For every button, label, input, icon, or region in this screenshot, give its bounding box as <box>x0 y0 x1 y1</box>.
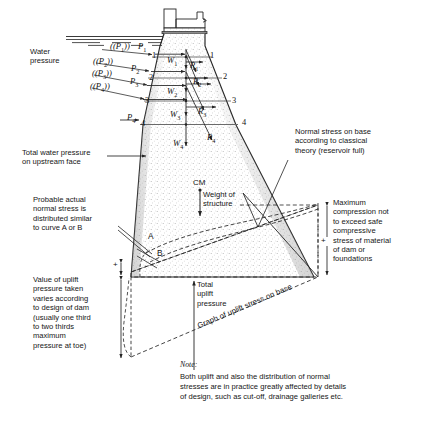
water-ordinate-p1: ((P1)) <box>110 41 130 53</box>
reaction-r2: R2 <box>193 76 201 88</box>
water-ordinate-p2: ((P2)) <box>93 56 113 68</box>
section-number-left-4: 4 <box>141 119 145 128</box>
water-pressure-label: Water pressure <box>30 47 60 66</box>
annotation-probable-actual-stress: Probable actual normal stress is distrib… <box>33 195 92 233</box>
section-number-right-4: 4 <box>242 118 246 127</box>
thrust-p4: P4 <box>127 112 135 124</box>
section-number-right-1: 1 <box>210 51 214 60</box>
reaction-r3: R3 <box>198 106 206 118</box>
reaction-r1: R1 <box>190 60 198 72</box>
annotation-uplift-value: Value of uplift pressure taken varies ac… <box>33 275 91 350</box>
reaction-r4: R4 <box>207 132 215 144</box>
annotation-max-compression: Maximum compression not to exceed safe c… <box>333 198 391 264</box>
annotation-normal-stress-base: Normal stress on base according to class… <box>295 127 371 155</box>
thrust-p3: P3 <box>130 76 138 88</box>
section-number-right-3: 3 <box>232 96 236 105</box>
note-title: Note: <box>180 360 197 369</box>
thrust-p1: P1 <box>138 41 146 53</box>
weight-w1: W1 <box>167 55 177 67</box>
dam-crest <box>162 9 207 34</box>
dam-body <box>131 34 314 277</box>
section-number-left-1: 1 <box>152 51 156 60</box>
diagram-canvas: Water pressure ((P1)) ((P2)) ((P3)) ((P4… <box>0 0 425 422</box>
plus-sign-left: + <box>113 260 118 269</box>
thrust-p2: P2 <box>131 63 139 75</box>
weight-w3: W3 <box>170 109 180 121</box>
section-number-right-2: 2 <box>223 72 227 81</box>
section-number-left-2: 2 <box>149 73 153 82</box>
weight-w2: W2 <box>167 86 177 98</box>
note-body: Both uplift and also the distribution of… <box>180 372 346 402</box>
water-ordinate-p4: ((P4)) <box>90 81 110 93</box>
cm-weight-label: Weight of structure <box>203 190 235 209</box>
curve-a-label: A <box>148 232 154 241</box>
weight-w4: W4 <box>173 138 183 150</box>
curve-b-label: B <box>157 249 163 258</box>
water-ordinate-p3: ((P3)) <box>92 68 112 80</box>
section-number-left-3: 3 <box>145 96 149 105</box>
annotation-total-uplift: Total uplift pressure <box>197 280 227 308</box>
cm-marker: CM <box>193 178 205 187</box>
plus-sign-right: + <box>321 236 326 245</box>
annotation-total-water-pressure: Total water pressure on upstream face <box>22 148 90 167</box>
